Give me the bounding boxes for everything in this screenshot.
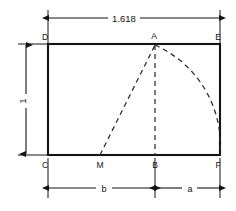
dimension-top-label: 1.618 xyxy=(112,13,136,24)
golden-ratio-figure: 1.618 1 b a D E A C M B F xyxy=(0,0,236,211)
vertex-label-E: E xyxy=(215,32,221,42)
vertex-label-B: B xyxy=(152,160,158,170)
dimension-a-label: a xyxy=(187,184,192,194)
dimension-left-label: 1 xyxy=(17,98,28,103)
dimension-top-width: 1.618 xyxy=(49,13,219,24)
vertex-label-C: C xyxy=(42,160,48,170)
golden-rectangle xyxy=(48,44,220,155)
dimension-bottom-b: b xyxy=(49,184,154,194)
vertex-label-M: M xyxy=(96,160,103,170)
dimension-bottom-a: a xyxy=(156,184,219,194)
dimension-left-height: 1 xyxy=(17,45,28,154)
vertex-label-F: F xyxy=(215,160,220,170)
vertex-label-D: D xyxy=(42,32,48,42)
vertex-label-A: A xyxy=(151,31,157,41)
diagram-canvas: 1.618 1 b a D E A C M B F xyxy=(0,0,236,211)
dimension-b-label: b xyxy=(101,184,106,194)
